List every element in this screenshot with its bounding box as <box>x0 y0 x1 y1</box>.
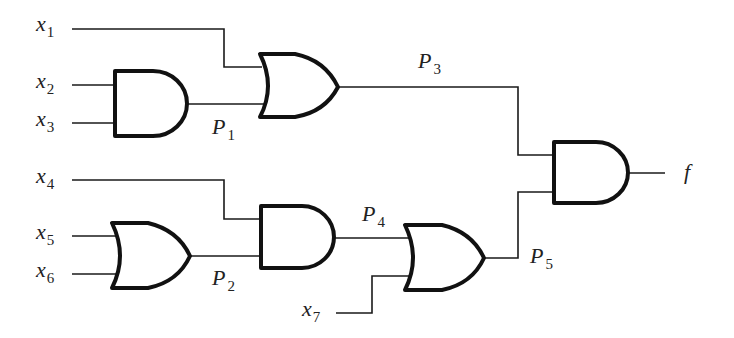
wire-p3 <box>338 87 554 155</box>
label-x1: x1 <box>35 11 54 40</box>
label-x5: x5 <box>35 219 54 248</box>
label-p5: P5 <box>529 243 553 272</box>
or-gate-p5 <box>405 225 484 290</box>
label-p1: P1 <box>211 114 235 143</box>
label-p4: P4 <box>361 201 385 230</box>
label-p3: P3 <box>417 48 441 77</box>
and-gate-f <box>554 142 628 203</box>
label-x7: x7 <box>301 296 321 325</box>
or-gate-p3 <box>260 54 338 117</box>
label-x6: x6 <box>35 257 55 286</box>
label-x4: x4 <box>35 163 55 192</box>
wire-x1 <box>72 29 262 67</box>
or-gate-p2 <box>112 223 190 288</box>
wire-x7 <box>336 276 410 313</box>
and-gate-p1 <box>115 71 187 136</box>
logic-circuit-diagram: x1 x2 x3 x4 x5 x6 x7 P1 P2 P3 P4 P5 f <box>0 0 734 338</box>
label-x2: x2 <box>35 68 54 97</box>
label-p2: P2 <box>211 265 235 294</box>
label-x3: x3 <box>35 106 54 135</box>
wire-x4 <box>72 180 261 219</box>
and-gate-p4 <box>261 206 334 268</box>
wire-p5 <box>484 192 554 258</box>
label-f: f <box>684 159 693 184</box>
